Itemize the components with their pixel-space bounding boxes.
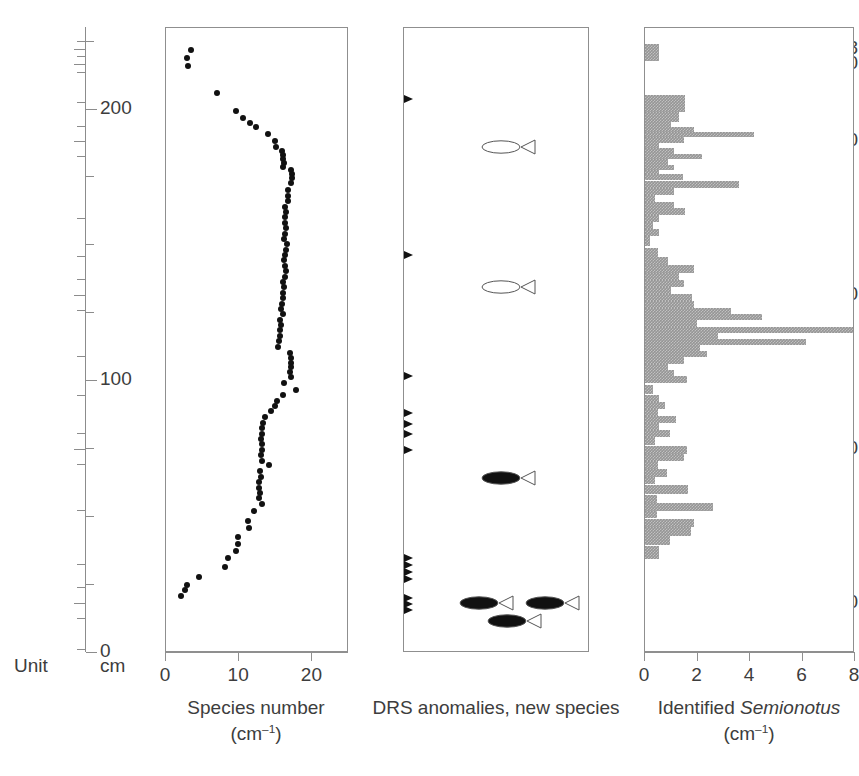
- drs-anomaly-marker: [404, 446, 413, 454]
- bar: [645, 301, 694, 308]
- scatter-point: [259, 501, 265, 507]
- x-axis-tick-label: 2: [691, 664, 702, 686]
- bar: [645, 265, 694, 273]
- fish-symbol-filled: [487, 611, 547, 631]
- x-axis-tick-label: 4: [744, 664, 755, 686]
- bar: [645, 370, 674, 376]
- x-axis-tick: [697, 652, 698, 661]
- scatter-point: [196, 574, 202, 580]
- bar: [645, 402, 665, 409]
- cm-tick: [86, 652, 97, 653]
- drs-anomaly-marker: [404, 95, 413, 103]
- bar: [645, 280, 684, 287]
- cm-tick: [86, 380, 97, 381]
- scatter-point: [253, 124, 259, 130]
- cm-axis-caption: cm: [100, 655, 125, 677]
- bar: [645, 511, 657, 519]
- scatter-point: [281, 380, 287, 386]
- bar: [645, 536, 670, 545]
- bar: [645, 202, 674, 209]
- unit-tick: [74, 449, 85, 450]
- unit-tick: [74, 603, 85, 604]
- drs-anomaly-marker: [404, 372, 413, 380]
- unit-tick: [74, 49, 85, 50]
- bar-chart-area: [645, 28, 853, 651]
- scatter-point: [225, 555, 231, 561]
- panel-identified-semionotus: [644, 27, 854, 652]
- bar: [645, 287, 671, 294]
- bar: [645, 181, 739, 188]
- unit-minor-tick: [77, 564, 85, 565]
- bar: [645, 376, 687, 383]
- scatter-point: [222, 564, 228, 570]
- x-axis-tick-label: 10: [228, 664, 249, 686]
- x-axis-tick: [644, 652, 645, 661]
- scatter-point: [288, 374, 294, 380]
- species-axis-title: Species number: [187, 697, 324, 719]
- bar: [645, 44, 659, 62]
- scatter-point: [182, 587, 188, 593]
- drs-anomaly-marker: [404, 430, 413, 438]
- unit-minor-tick: [77, 156, 85, 157]
- x-axis-tick-label: 20: [301, 664, 322, 686]
- panel-drs-anomalies: [403, 27, 589, 652]
- bar: [645, 174, 683, 180]
- scatter-point: [268, 408, 274, 414]
- unit-minor-tick: [77, 41, 85, 42]
- x-axis-tick: [165, 652, 166, 661]
- species-x-axis: [165, 652, 348, 653]
- scatter-point: [280, 392, 286, 398]
- scatter-point: [288, 180, 294, 186]
- cm-tick: [86, 109, 97, 110]
- unit-minor-tick: [77, 102, 85, 103]
- unit-minor-tick: [77, 56, 85, 57]
- scatter-point: [285, 187, 291, 193]
- bar: [645, 519, 694, 527]
- cm-tick-label: 100: [100, 368, 132, 390]
- bar: [645, 215, 659, 222]
- scatter-point: [185, 63, 191, 69]
- unit-minor-tick: [77, 587, 85, 588]
- unit-minor-tick: [77, 72, 85, 73]
- bar: [645, 477, 655, 485]
- bar: [645, 257, 668, 265]
- scatter-point: [245, 518, 251, 524]
- bar: [645, 485, 688, 494]
- scatter-point: [235, 541, 241, 547]
- cm-minor-tick: [86, 244, 94, 245]
- scatter-point: [247, 120, 253, 126]
- bar: [645, 188, 674, 195]
- bar: [645, 416, 676, 423]
- fish-symbol-filled: [481, 468, 541, 488]
- scatter-point: [259, 458, 265, 464]
- unit-minor-tick: [77, 310, 85, 311]
- panel-species-number: [165, 27, 348, 652]
- depth-axis-line: [85, 27, 86, 652]
- bar: [645, 423, 659, 430]
- x-axis-tick: [238, 652, 239, 661]
- unit-tick: [74, 295, 85, 296]
- unit-minor-tick: [77, 279, 85, 280]
- unit-tick: [74, 64, 85, 65]
- scatter-plot-area: [166, 28, 347, 651]
- x-axis-tick-label: 6: [796, 664, 807, 686]
- scatter-point: [233, 108, 239, 114]
- drs-anomaly-marker: [404, 409, 413, 417]
- drs-axis-title: DRS anomalies, new species: [372, 697, 619, 719]
- scatter-point: [285, 198, 291, 204]
- bar: [645, 430, 670, 437]
- bar: [645, 248, 658, 257]
- bar: [645, 469, 667, 477]
- drs-symbol-area: [404, 28, 588, 651]
- bar: [645, 454, 684, 462]
- unit-minor-tick: [77, 218, 85, 219]
- x-axis-tick-label: 0: [639, 664, 650, 686]
- unit-minor-tick: [77, 395, 85, 396]
- cm-minor-tick: [86, 448, 94, 449]
- scatter-point: [280, 164, 286, 170]
- bar: [645, 527, 691, 535]
- bar: [645, 294, 692, 301]
- x-axis-tick: [311, 652, 312, 661]
- x-axis-tick: [802, 652, 803, 661]
- scatter-point: [273, 144, 279, 150]
